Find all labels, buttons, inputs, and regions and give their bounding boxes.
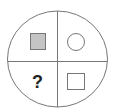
question-mark: ? xyxy=(32,73,43,91)
puzzle-figure xyxy=(0,0,113,112)
white-square-icon xyxy=(68,74,85,90)
white-circle-icon xyxy=(68,34,85,51)
gray-square-icon xyxy=(31,34,46,50)
